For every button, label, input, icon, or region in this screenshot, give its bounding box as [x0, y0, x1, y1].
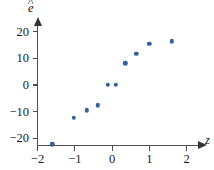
y-axis-title-glyph: e ^ [28, 2, 34, 15]
x-axis-line [37, 145, 201, 146]
data-point [123, 61, 127, 65]
x-tick-label: −1 [68, 153, 81, 166]
x-tick-mark [37, 146, 38, 152]
y-tick-mark [33, 84, 39, 85]
data-point [71, 115, 75, 119]
x-tick-mark [74, 146, 75, 152]
y-axis-arrow-icon [34, 17, 42, 26]
data-point [147, 41, 151, 45]
x-tick-mark [186, 146, 187, 152]
x-tick-label: −2 [31, 153, 44, 166]
data-point [114, 83, 118, 87]
y-tick-mark [33, 58, 39, 59]
data-point [170, 39, 174, 43]
x-tick-mark [149, 146, 150, 152]
scatter-plot-figure: e ^ z 20100−10−20 −2−1012 [0, 0, 214, 170]
x-axis-title: z [205, 134, 210, 147]
y-tick-label: 20 [17, 26, 30, 39]
y-tick-label: 10 [17, 52, 30, 65]
x-tick-label: 1 [146, 153, 152, 166]
data-point [85, 108, 89, 112]
data-point [105, 83, 109, 87]
y-axis-title-accent: ^ [28, 0, 33, 9]
x-tick-label: 2 [184, 153, 190, 166]
y-axis-title: e ^ [28, 2, 34, 15]
y-tick-label: −10 [9, 105, 29, 118]
data-point [134, 51, 138, 55]
x-tick-label: 0 [109, 153, 115, 166]
y-tick-mark [33, 111, 39, 112]
y-tick-label: 0 [23, 79, 29, 92]
y-tick-mark [33, 138, 39, 139]
y-tick-label: −20 [9, 132, 29, 145]
x-tick-mark [112, 146, 113, 152]
plot-area: e ^ z 20100−10−20 −2−1012 [0, 0, 214, 170]
y-tick-mark [33, 31, 39, 32]
data-point [96, 103, 100, 107]
